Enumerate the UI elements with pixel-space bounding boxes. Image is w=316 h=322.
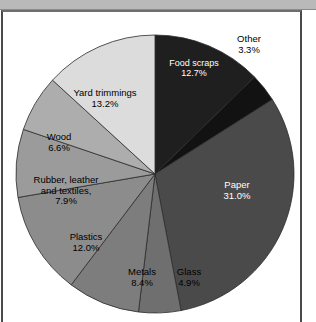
pie-chart: Food scraps12.7%Other3.3%Paper31.0%Glass… bbox=[3, 12, 304, 322]
pie-label-yard-trimmings-line-2: 13.2% bbox=[61, 99, 149, 110]
window-toolbar-strip bbox=[0, 0, 316, 10]
pie-label-wood: Wood6.6% bbox=[35, 132, 83, 153]
pie-label-paper-line-2: 31.0% bbox=[206, 191, 268, 202]
pie-label-metals-line-2: 8.4% bbox=[119, 278, 165, 289]
pie-label-food-scraps-line-1: Food scraps bbox=[151, 58, 237, 68]
pie-label-paper: Paper31.0% bbox=[206, 180, 268, 201]
pie-label-rubber-leather-and-textiles-line-3: 7.9% bbox=[19, 196, 113, 207]
figure-frame: Food scraps12.7%Other3.3%Paper31.0%Glass… bbox=[1, 10, 302, 322]
pie-label-food-scraps-line-2: 12.7% bbox=[151, 68, 237, 78]
pie-label-food-scraps: Food scraps12.7% bbox=[151, 58, 237, 78]
pie-label-other-line-2: 3.3% bbox=[219, 45, 279, 56]
pie-label-plastics: Plastics12.0% bbox=[57, 232, 115, 253]
pie-label-wood-line-2: 6.6% bbox=[35, 143, 83, 154]
pie-label-yard-trimmings: Yard trimmings13.2% bbox=[61, 88, 149, 109]
pie-label-glass: Glass4.9% bbox=[167, 267, 211, 288]
pie-label-plastics-line-2: 12.0% bbox=[57, 243, 115, 254]
pie-label-metals: Metals8.4% bbox=[119, 267, 165, 288]
pie-label-rubber-leather-and-textiles: Rubber, leatherand textiles,7.9% bbox=[19, 175, 113, 207]
pie-label-other: Other3.3% bbox=[219, 34, 279, 55]
pie-label-glass-line-2: 4.9% bbox=[167, 278, 211, 289]
